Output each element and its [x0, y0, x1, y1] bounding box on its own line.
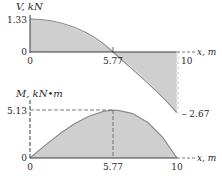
moment-axis-label: M, kN•m — [15, 88, 63, 99]
shear-tick-x-end: 10 — [181, 56, 193, 66]
moment-area — [30, 110, 177, 158]
shear-moment-diagram: V, kN 1.33 0 0 5.77 10 x, m – 2.67 M, kN… — [0, 0, 222, 184]
shear-tick-x-cross: 5.77 — [103, 56, 123, 66]
shear-tick-x-zero: 0 — [27, 56, 33, 66]
shear-tick-y-top: 1.33 — [7, 15, 27, 25]
moment-tick-x-end: 10 — [171, 162, 183, 172]
shear-area-positive — [30, 19, 113, 52]
moment-tick-x-zero: 0 — [27, 162, 33, 172]
moment-diagram: M, kN•m 5.13 0 0 5.77 10 x, m — [7, 88, 216, 172]
shear-x-axis-label: x, m — [197, 47, 216, 57]
shear-axis-label: V, kN — [16, 1, 44, 12]
shear-diagram: V, kN 1.33 0 0 5.77 10 x, m – 2.67 — [7, 1, 216, 119]
moment-tick-x-peak: 5.77 — [103, 162, 123, 172]
moment-x-axis-label: x, m — [197, 153, 216, 163]
moment-tick-y-max: 5.13 — [7, 106, 27, 116]
shear-min-label: – 2.67 — [182, 109, 210, 119]
